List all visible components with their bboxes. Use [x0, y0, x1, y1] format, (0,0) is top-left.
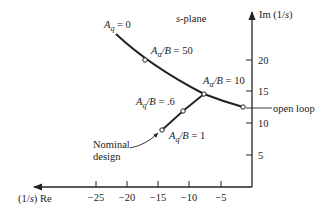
label-aq-zero: Aq = 0	[103, 19, 131, 33]
label-aq-b-1: Aq/B = 1	[168, 130, 205, 144]
y-tick-label: 15	[258, 86, 269, 97]
point-aa-b-10	[202, 92, 206, 96]
point-open-loop	[241, 105, 245, 109]
root-locus-diagram: −25 −20 −15 −10 −5 20 15 10 5 Im (1/s) (…	[0, 0, 328, 215]
nominal-design-arrow	[130, 133, 158, 148]
x-axis-label: (1/s) Re	[18, 193, 52, 205]
x-ticks	[96, 181, 221, 187]
y-tick-label: 20	[258, 55, 269, 66]
label-nominal-line2: design	[93, 151, 121, 162]
x-tick-label: −5	[215, 192, 226, 203]
y-tick-label: 10	[258, 118, 269, 129]
x-tick-label: −25	[88, 192, 104, 203]
x-tick-label: −15	[150, 192, 166, 203]
y-ticks	[246, 60, 252, 155]
label-aa-b-50: Aα/B = 50	[150, 45, 193, 59]
x-tick-label: −20	[119, 192, 135, 203]
label-nominal-line1: Nominal	[93, 139, 130, 150]
point-aa-b-50	[143, 58, 147, 62]
label-aa-b-10: Aα/B = 10	[202, 75, 245, 89]
point-aq-b-06	[181, 109, 185, 113]
y-axis-label: Im (1/s)	[259, 9, 293, 21]
label-aq-b-06: Aq/B = .6	[135, 96, 175, 110]
y-tick-label: 5	[258, 150, 263, 161]
label-open-loop: open loop	[273, 103, 315, 114]
s-plane-label: s-plane	[176, 13, 207, 24]
point-aq-b-1	[160, 128, 164, 132]
x-tick-label: −10	[181, 192, 197, 203]
